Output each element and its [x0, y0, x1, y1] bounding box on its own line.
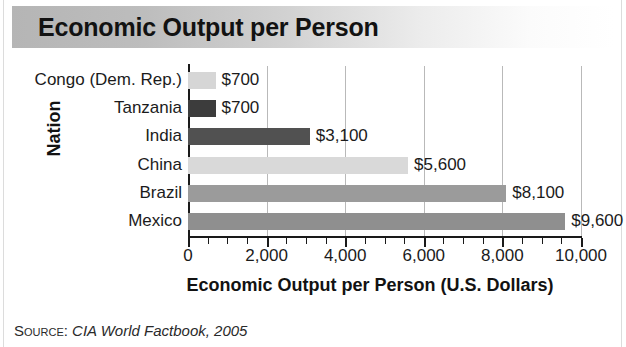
x-tick-label: 2,000 — [245, 246, 288, 266]
source-line: Source: CIA World Factbook, 2005 — [14, 322, 247, 339]
x-tick-minor — [522, 238, 523, 244]
x-tick-minor — [561, 238, 562, 244]
page-edge-rule-right — [621, 0, 622, 347]
chart-title: Economic Output per Person — [38, 13, 379, 42]
bar-value-label: $5,600 — [414, 155, 466, 175]
category-label: Mexico — [0, 211, 182, 231]
x-tick-label: 6,000 — [403, 246, 446, 266]
bar-value-label: $9,600 — [571, 211, 623, 231]
x-tick-minor — [306, 238, 307, 244]
bar-value-label: $700 — [222, 98, 260, 118]
x-tick-minor — [208, 238, 209, 244]
bar — [188, 185, 506, 202]
category-label: China — [0, 155, 182, 175]
x-tick-minor — [365, 238, 366, 244]
x-tick-label: 0 — [183, 246, 192, 266]
x-tick-minor — [227, 238, 228, 244]
x-tick-minor — [286, 238, 287, 244]
gridline — [267, 66, 268, 236]
bar — [188, 128, 310, 145]
category-label: Congo (Dem. Rep.) — [0, 70, 182, 90]
x-tick-minor — [463, 238, 464, 244]
bar-value-label: $8,100 — [512, 183, 564, 203]
x-tick-minor — [443, 238, 444, 244]
category-label: Brazil — [0, 183, 182, 203]
x-tick-label: 10,000 — [555, 246, 607, 266]
bar-value-label: $3,100 — [316, 126, 368, 146]
x-axis-title: Economic Output per Person (U.S. Dollars… — [120, 275, 620, 296]
bar-value-label: $700 — [222, 70, 260, 90]
bar — [188, 72, 216, 89]
y-axis-title: Nation — [44, 69, 65, 189]
x-tick-minor — [385, 238, 386, 244]
bar — [188, 157, 408, 174]
source-text: CIA World Factbook, 2005 — [72, 322, 247, 339]
x-tick-minor — [404, 238, 405, 244]
x-tick-minor — [326, 238, 327, 244]
gridline — [424, 66, 425, 236]
source-label: Source: — [14, 322, 68, 339]
gridline — [345, 66, 346, 236]
x-tick-minor — [542, 238, 543, 244]
bar — [188, 100, 216, 117]
x-tick-label: 4,000 — [324, 246, 367, 266]
category-label: India — [0, 126, 182, 146]
chart-figure: Economic Output per Person 02,0004,0006,… — [0, 0, 626, 347]
bar — [188, 213, 565, 230]
x-tick-minor — [483, 238, 484, 244]
plot-area — [188, 66, 581, 236]
x-tick-minor — [247, 238, 248, 244]
x-tick-label: 8,000 — [481, 246, 524, 266]
gridline — [502, 66, 503, 236]
category-label: Tanzania — [0, 98, 182, 118]
chart-title-banner: Economic Output per Person — [12, 6, 614, 48]
